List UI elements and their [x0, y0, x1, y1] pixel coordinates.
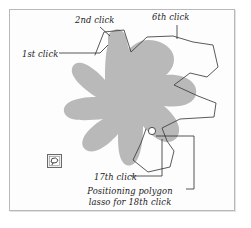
polygon-lasso-icon — [49, 156, 60, 166]
label-positioning-line-1: Positioning polygon — [70, 186, 190, 197]
label-positioning-line-2: lasso for 18th click — [70, 197, 190, 208]
label-2nd-click: 2nd click — [75, 15, 114, 26]
polygon-lasso-tool-button[interactable] — [47, 154, 62, 168]
figure-container: 1st click 2nd click 6th click 17th click… — [0, 0, 251, 228]
label-17th-click: 17th click — [94, 172, 137, 183]
label-positioning-polygon-lasso: Positioning polygon lasso for 18th click — [70, 186, 190, 207]
label-1st-click: 1st click — [22, 49, 58, 60]
label-6th-click: 6th click — [152, 12, 189, 23]
